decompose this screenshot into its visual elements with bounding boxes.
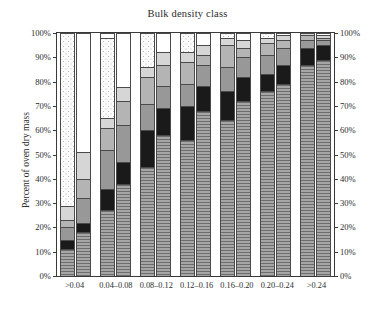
stacked-bar[interactable]	[140, 33, 155, 276]
y-axis-tick-left	[53, 276, 57, 277]
bar-group	[260, 33, 291, 276]
stacked-bar[interactable]	[300, 33, 315, 276]
bar-group	[140, 33, 171, 276]
y-axis-tick-left	[53, 33, 57, 34]
y-axis-label-right: 80%	[340, 77, 356, 86]
bar-group	[60, 33, 91, 276]
x-axis-label: 0.04–0.08	[99, 281, 130, 290]
x-axis-label: >0.04	[59, 281, 90, 290]
y-axis-tick-right	[334, 155, 338, 156]
stacked-bar[interactable]	[276, 33, 291, 276]
bar-segment-gray	[181, 62, 194, 84]
bar-segment-white-empty	[77, 33, 90, 152]
bar-segment-medium-gray	[181, 84, 194, 106]
bar-segment-light-gray	[141, 67, 154, 77]
bar-segment-hatched-gray	[221, 120, 234, 276]
y-axis-tick-right	[334, 227, 338, 228]
bar-segment-gray	[197, 55, 210, 65]
bar-segment-gray	[221, 45, 234, 67]
bar-segment-light-gray	[117, 87, 130, 102]
bar-segment-hatched-gray	[117, 184, 130, 276]
bar-segment-gray	[277, 40, 290, 47]
bar-segment-black	[117, 162, 130, 184]
stacked-bar[interactable]	[76, 33, 91, 276]
y-axis-label-left: 0%	[40, 272, 51, 281]
bar-segment-hatched-gray	[237, 101, 250, 276]
bar-segment-black	[157, 108, 170, 135]
bar-segment-black	[77, 223, 90, 233]
bar-segment-hatched-gray	[61, 249, 74, 276]
x-axis-label: 0.08–0.12	[140, 281, 171, 290]
y-axis-label-right: 70%	[340, 102, 356, 111]
y-axis-label-left: 10%	[35, 247, 51, 256]
bar-segment-gray	[101, 128, 114, 150]
y-axis-tick-left	[53, 82, 57, 83]
y-axis-tick-right	[334, 57, 338, 58]
stacked-bar[interactable]	[220, 33, 235, 276]
bar-segment-hatched-gray	[101, 210, 114, 276]
bar-segment-white-empty	[157, 33, 170, 52]
bar-segment-hatched-gray	[301, 65, 314, 276]
page-title: Bulk density class	[0, 8, 375, 19]
bar-segment-black	[301, 48, 314, 65]
bar-segment-hatched-gray	[77, 232, 90, 276]
bar-group	[180, 33, 211, 276]
y-axis-label-left: 80%	[35, 77, 51, 86]
bar-segment-dotted	[101, 38, 114, 118]
bar-segment-medium-gray	[197, 65, 210, 87]
y-axis-tick-right	[334, 252, 338, 253]
stacked-bar[interactable]	[236, 33, 251, 276]
bar-segment-light-gray	[237, 40, 250, 47]
bar-segment-black	[101, 189, 114, 211]
bar-segment-white-empty	[237, 33, 250, 40]
y-axis-label-right: 100%	[340, 29, 360, 38]
bar-group	[300, 33, 331, 276]
bar-segment-gray	[261, 43, 274, 55]
bar-segment-light-gray	[221, 38, 234, 45]
bar-segment-gray	[157, 65, 170, 87]
stacked-bar[interactable]	[60, 33, 75, 276]
bar-segment-light-gray	[101, 118, 114, 128]
stacked-bar[interactable]	[116, 33, 131, 276]
stacked-bar[interactable]	[196, 33, 211, 276]
bar-segment-gray	[141, 77, 154, 104]
bar-segment-medium-gray	[77, 198, 90, 222]
y-axis-label-left: 20%	[35, 223, 51, 232]
bar-segment-black	[317, 45, 330, 60]
bar-segment-medium-gray	[301, 40, 314, 47]
y-axis-label-right: 0%	[340, 272, 351, 281]
bar-segment-hatched-gray	[261, 91, 274, 276]
stacked-bar[interactable]	[316, 33, 331, 276]
y-axis-label-right: 50%	[340, 150, 356, 159]
bar-segment-medium-gray	[261, 55, 274, 74]
x-axis-label: 0.16–0.20	[220, 281, 251, 290]
bar-segment-gray	[117, 101, 130, 125]
bar-segment-hatched-gray	[157, 135, 170, 276]
stacked-bar[interactable]	[100, 33, 115, 276]
bar-segment-gray	[237, 48, 250, 58]
y-axis-label-left: 70%	[35, 102, 51, 111]
bar-segment-light-gray	[197, 45, 210, 55]
y-axis-label-left: 60%	[35, 126, 51, 135]
bar-segment-black	[61, 240, 74, 250]
bar-segment-hatched-gray	[141, 167, 154, 276]
bar-segment-dotted	[181, 33, 194, 52]
bar-segment-black	[197, 86, 210, 110]
bar-segment-hatched-gray	[181, 140, 194, 276]
bar-segment-black	[277, 65, 290, 84]
bar-segment-light-gray	[77, 152, 90, 179]
bar-segment-gray	[77, 179, 90, 198]
bar-segment-medium-gray	[221, 67, 234, 91]
bar-segment-medium-gray	[237, 57, 250, 76]
y-axis-tick-left	[53, 252, 57, 253]
stacked-bar[interactable]	[180, 33, 195, 276]
bar-segment-hatched-gray	[277, 84, 290, 276]
bar-segment-medium-gray	[157, 86, 170, 108]
y-axis-tick-left	[53, 227, 57, 228]
stacked-bar[interactable]	[156, 33, 171, 276]
stacked-bar[interactable]	[260, 33, 275, 276]
y-axis-label-right: 40%	[340, 175, 356, 184]
bar-segment-dotted	[141, 33, 154, 67]
x-axis-labels: >0.040.04–0.080.08–0.120.12–0.160.16–0.2…	[56, 281, 335, 290]
y-axis-label-right: 30%	[340, 199, 356, 208]
